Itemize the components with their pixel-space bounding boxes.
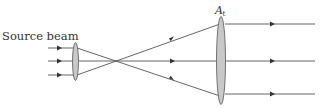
middle-rays xyxy=(77,24,220,96)
target-lens xyxy=(217,17,226,105)
arrow-icon xyxy=(170,59,175,64)
middle-arrows xyxy=(169,36,175,80)
input-arrows xyxy=(57,46,62,78)
arrow-icon xyxy=(270,22,275,27)
output-arrows xyxy=(270,22,275,97)
ray-top-to-bottom xyxy=(77,48,220,96)
arrow-icon xyxy=(270,92,275,97)
source-lens xyxy=(73,43,79,81)
aperture-subscript: t xyxy=(223,10,226,18)
source-beam-label: Source beam xyxy=(2,29,79,43)
ray-bottom-to-top xyxy=(77,24,220,75)
arrow-icon xyxy=(270,59,275,64)
arrow-icon xyxy=(57,46,62,51)
arrow-icon xyxy=(57,73,62,78)
beam-expander-diagram: Source beam A t xyxy=(0,0,332,108)
arrow-icon xyxy=(57,59,62,64)
